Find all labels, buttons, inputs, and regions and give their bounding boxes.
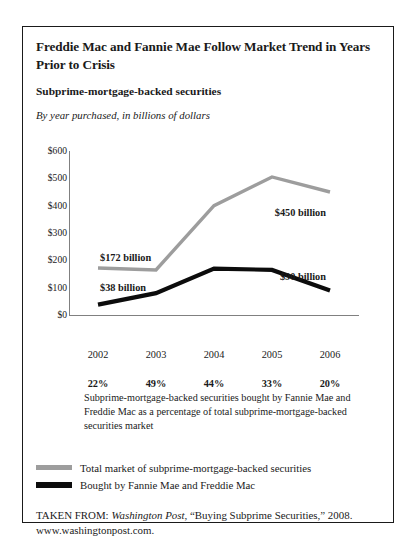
value-annotation: $172 billion: [100, 253, 151, 263]
source-citation: TAKEN FROM: Washington Post, “Buying Sub…: [36, 508, 386, 538]
chart-legend: Total market of subprime-mortgage-backed…: [36, 459, 382, 493]
legend-label: Bought by Fannie Mae and Freddie Mac: [80, 479, 255, 491]
plot-wrapper: $600$500$400$300$200$100$0 $172 billion$…: [23, 146, 395, 346]
percent-share-value: 49%: [127, 360, 185, 389]
y-tick-label: $400: [27, 201, 67, 211]
y-tick-label: $0: [27, 310, 67, 320]
plot-area: $172 billion$38 billion$450 billion$90 b…: [69, 146, 379, 346]
value-annotation: $90 billion: [69, 272, 326, 282]
x-tick-label: 2003: [127, 347, 185, 360]
x-tick-label: 2002: [69, 347, 127, 360]
percent-share-value: 33%: [243, 360, 301, 389]
y-tick-label: $600: [27, 146, 67, 156]
x-tick-label: 2006: [301, 347, 359, 360]
x-tick-label: 2004: [185, 347, 243, 360]
chart-units-note: By year purchased, in billions of dollar…: [36, 108, 380, 122]
x-axis-percent-row: 22%49%44%33%20%: [69, 360, 359, 389]
x-axis-year-row: 20022003200420052006: [69, 347, 359, 360]
figure-frame: Freddie Mac and Fannie Mae Follow Market…: [22, 26, 394, 523]
legend-swatch-total-market: [36, 465, 72, 470]
source-url: www.washingtonpost.com.: [36, 524, 154, 536]
value-annotation: $450 billion: [69, 208, 326, 218]
y-tick-label: $500: [27, 174, 67, 184]
percent-share-value: 44%: [185, 360, 243, 389]
y-tick-label: $300: [27, 228, 67, 238]
x-tick-label: 2005: [243, 347, 301, 360]
y-tick-label: $200: [27, 256, 67, 266]
source-prefix: TAKEN FROM:: [36, 509, 111, 521]
x-axis-rows: 20022003200420052006 22%49%44%33%20%: [69, 347, 379, 389]
source-article: , “Buying Subprime Securities,” 2008.: [185, 509, 353, 521]
y-axis-labels: $600$500$400$300$200$100$0: [25, 146, 67, 346]
percent-share-value: 22%: [69, 360, 127, 389]
legend-label: Total market of subprime-mortgage-backed…: [80, 462, 311, 474]
legend-swatch-fannie-freddie: [36, 482, 72, 488]
legend-item: Total market of subprime-mortgage-backed…: [36, 459, 382, 476]
chart-subtitle: Subprime-mortgage-backed securities: [36, 84, 380, 99]
chart-footnote: Subprime-mortgage-backed securities boug…: [84, 391, 356, 433]
source-publication: Washington Post: [111, 509, 184, 521]
value-annotation: $38 billion: [100, 283, 146, 293]
percent-share-value: 20%: [301, 360, 359, 389]
y-tick-label: $100: [27, 283, 67, 293]
legend-item: Bought by Fannie Mae and Freddie Mac: [36, 476, 382, 493]
page-title: Freddie Mac and Fannie Mae Follow Market…: [36, 38, 380, 73]
series-lines: [69, 146, 379, 346]
